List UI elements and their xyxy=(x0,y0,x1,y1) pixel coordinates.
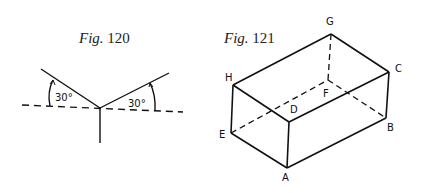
edge-front-C xyxy=(289,72,389,122)
fig-120-diagram xyxy=(22,69,183,143)
vertex-label-H: H xyxy=(225,72,233,83)
fig-121-box-diagram xyxy=(231,34,389,168)
left-angle-arc xyxy=(49,80,53,106)
hidden-edge-EF xyxy=(231,80,328,133)
edge-HE xyxy=(231,85,233,133)
edge-BC xyxy=(386,72,389,118)
vertex-label-D: D xyxy=(290,104,298,115)
left-angle-label: 30° xyxy=(55,92,73,103)
edge-EA xyxy=(231,133,287,168)
edge-CG xyxy=(331,34,389,72)
edge-GH xyxy=(233,34,331,85)
hidden-edge-GF xyxy=(328,34,331,80)
vertex-label-E: E xyxy=(219,129,225,140)
vertex-label-G: G xyxy=(326,16,334,27)
vertex-label-C: C xyxy=(395,63,402,74)
vertex-label-B: B xyxy=(387,122,394,133)
edge-front-A xyxy=(287,122,289,168)
vertex-label-F: F xyxy=(323,88,329,99)
figures-canvas: 30° 30° G C H F D B E A xyxy=(0,0,423,193)
edge-AB xyxy=(287,118,386,168)
vertex-label-A: A xyxy=(282,172,289,183)
right-angle-label: 30° xyxy=(128,98,146,109)
